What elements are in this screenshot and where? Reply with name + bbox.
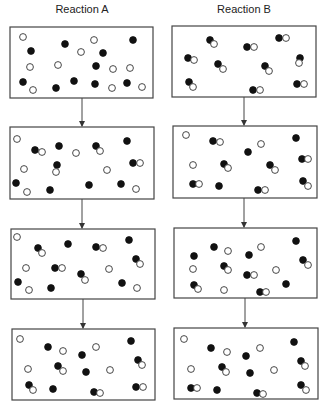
open-particle bbox=[78, 49, 85, 56]
open-particle bbox=[271, 367, 278, 374]
open-particle bbox=[30, 87, 37, 94]
open-particle bbox=[183, 132, 190, 139]
open-particle bbox=[93, 344, 100, 351]
open-particle bbox=[91, 37, 98, 44]
filled-particle bbox=[54, 162, 61, 169]
filled-particle bbox=[130, 37, 137, 44]
open-particle bbox=[225, 267, 232, 274]
open-particle bbox=[263, 289, 270, 296]
filled-particle bbox=[294, 81, 301, 88]
open-particle bbox=[97, 148, 104, 155]
open-particle bbox=[53, 169, 60, 176]
filled-particle bbox=[53, 85, 60, 92]
open-particle bbox=[139, 362, 146, 369]
filled-particle bbox=[250, 87, 257, 94]
filled-particle bbox=[130, 160, 137, 167]
filled-particle bbox=[20, 79, 27, 86]
open-particle bbox=[14, 136, 21, 143]
open-particle bbox=[24, 189, 31, 196]
filled-particle bbox=[276, 35, 283, 42]
open-particle bbox=[258, 141, 265, 148]
filled-particle bbox=[65, 241, 72, 248]
open-particle bbox=[20, 34, 27, 41]
filled-particle bbox=[283, 281, 290, 288]
open-particle bbox=[60, 348, 67, 355]
open-particle bbox=[302, 363, 309, 370]
open-particle bbox=[257, 345, 264, 352]
open-particle bbox=[73, 150, 80, 157]
open-particle bbox=[100, 245, 107, 252]
open-particle bbox=[266, 68, 273, 75]
open-particle bbox=[109, 85, 116, 92]
filled-particle bbox=[211, 244, 218, 251]
filled-particle bbox=[28, 48, 35, 55]
filled-particle bbox=[100, 50, 107, 57]
open-particle bbox=[39, 149, 46, 156]
filled-particle bbox=[47, 187, 54, 194]
open-particle bbox=[190, 162, 197, 169]
open-particle bbox=[194, 385, 201, 392]
open-particle bbox=[82, 277, 89, 284]
filled-particle bbox=[246, 252, 253, 259]
filled-particle bbox=[52, 265, 59, 272]
open-particle bbox=[21, 166, 28, 173]
filled-particle bbox=[15, 279, 22, 286]
open-particle bbox=[110, 66, 117, 73]
filled-particle bbox=[128, 338, 135, 345]
filled-particle bbox=[48, 285, 55, 292]
filled-particle bbox=[86, 182, 93, 189]
open-particle bbox=[190, 266, 197, 273]
open-particle bbox=[305, 183, 312, 190]
open-particle bbox=[26, 287, 33, 294]
open-particle bbox=[257, 87, 264, 94]
filled-particle bbox=[210, 138, 217, 145]
open-particle bbox=[296, 60, 303, 67]
open-particle bbox=[181, 336, 188, 343]
open-particle bbox=[106, 266, 113, 273]
filled-particle bbox=[247, 370, 254, 377]
open-particle bbox=[23, 265, 30, 272]
open-particle bbox=[17, 336, 24, 343]
open-particle bbox=[27, 64, 34, 71]
open-particle bbox=[60, 368, 67, 375]
open-particle bbox=[221, 287, 228, 294]
filled-particle bbox=[124, 80, 131, 87]
open-particle bbox=[190, 84, 197, 91]
filled-particle bbox=[293, 135, 300, 142]
open-particle bbox=[140, 384, 147, 391]
open-particle bbox=[139, 84, 146, 91]
open-particle bbox=[220, 66, 227, 73]
open-particle bbox=[224, 349, 231, 356]
open-particle bbox=[251, 44, 258, 51]
filled-particle bbox=[83, 369, 90, 376]
open-particle bbox=[137, 261, 144, 268]
open-particle bbox=[211, 41, 218, 48]
open-particle bbox=[14, 234, 21, 241]
filled-particle bbox=[124, 138, 131, 145]
open-particle bbox=[133, 186, 140, 193]
open-particle bbox=[134, 285, 141, 292]
open-particle bbox=[55, 62, 62, 69]
filled-particle bbox=[93, 63, 100, 70]
filled-particle bbox=[92, 81, 99, 88]
open-particle bbox=[258, 244, 265, 251]
filled-particle bbox=[243, 353, 250, 360]
open-particle bbox=[251, 272, 258, 279]
filled-particle bbox=[93, 244, 100, 251]
filled-particle bbox=[50, 386, 57, 393]
open-particle bbox=[305, 156, 312, 163]
filled-particle bbox=[126, 237, 133, 244]
open-particle bbox=[188, 366, 195, 373]
filled-particle bbox=[291, 339, 298, 346]
filled-particle bbox=[71, 78, 78, 85]
open-particle bbox=[260, 391, 267, 398]
filled-particle bbox=[32, 147, 39, 154]
open-particle bbox=[137, 160, 144, 167]
open-particle bbox=[225, 165, 232, 172]
filled-particle bbox=[13, 180, 20, 187]
open-particle bbox=[59, 265, 66, 272]
open-particle bbox=[223, 369, 230, 376]
filled-particle bbox=[119, 280, 126, 287]
open-particle bbox=[127, 65, 134, 72]
open-particle bbox=[196, 181, 203, 188]
